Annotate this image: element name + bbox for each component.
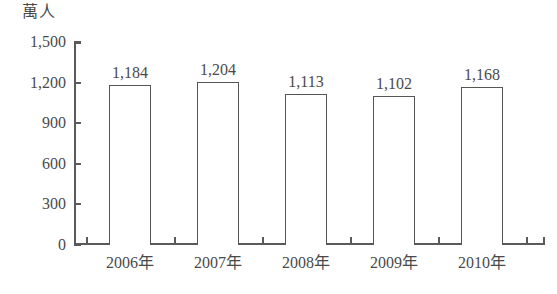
- y-tick-mark: [74, 82, 81, 84]
- bar: 1,102: [373, 96, 415, 245]
- bar: 1,184: [109, 85, 151, 245]
- y-axis-unit-caption: 萬人: [22, 2, 56, 22]
- plot-area: 03006009001,2001,500 1,1841,2041,1131,10…: [74, 42, 545, 245]
- y-tick-label: 0: [58, 237, 66, 253]
- x-tick-mark: [438, 237, 440, 245]
- bar-value-label: 1,184: [112, 65, 148, 81]
- y-tick-label: 1,200: [30, 75, 66, 91]
- bar-value-label: 1,204: [200, 62, 236, 78]
- chart-figure: 萬人 03006009001,2001,500 1,1841,2041,1131…: [0, 0, 557, 294]
- bar-value-label: 1,102: [376, 76, 412, 92]
- x-tick-mark: [174, 237, 176, 245]
- y-tick-label: 300: [42, 196, 66, 212]
- y-tick-label: 900: [42, 115, 66, 131]
- y-tick-mark: [74, 122, 81, 124]
- bar: 1,113: [285, 94, 327, 245]
- y-tick-mark: [74, 41, 81, 43]
- x-axis-end-cap: [543, 237, 545, 245]
- y-tick-label: 600: [42, 156, 66, 172]
- x-tick-mark: [526, 237, 528, 245]
- x-category-label: 2009年: [370, 254, 418, 272]
- bar-value-label: 1,113: [288, 74, 323, 90]
- x-tick-mark: [350, 237, 352, 245]
- y-axis-line: [74, 42, 76, 245]
- y-tick-mark: [74, 163, 81, 165]
- bar: 1,168: [461, 87, 503, 245]
- x-category-label: 2008年: [282, 254, 330, 272]
- x-tick-mark: [86, 237, 88, 245]
- x-category-label: 2007年: [194, 254, 242, 272]
- y-tick-mark: [74, 244, 81, 246]
- bar: 1,204: [197, 82, 239, 245]
- y-tick-mark: [74, 203, 81, 205]
- bar-value-label: 1,168: [464, 67, 500, 83]
- y-tick-label: 1,500: [30, 34, 66, 50]
- x-tick-mark: [262, 237, 264, 245]
- x-category-label: 2006年: [106, 254, 154, 272]
- x-category-label: 2010年: [458, 254, 506, 272]
